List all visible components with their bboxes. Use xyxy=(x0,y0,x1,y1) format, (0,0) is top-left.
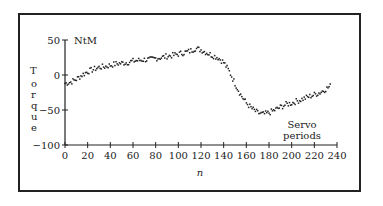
x-tick-label: 120 xyxy=(191,150,210,161)
x-tick-label: 160 xyxy=(237,150,256,161)
x-tick-label: 180 xyxy=(259,150,278,161)
torque-chart: 020406080100120140160180200220240500−50−… xyxy=(0,0,383,206)
annotation-line2: periods xyxy=(283,130,321,141)
y-axis-label: T o r q u e xyxy=(30,65,38,133)
x-tick-label: 100 xyxy=(169,150,188,161)
svg-text:T: T xyxy=(30,65,37,76)
data-points xyxy=(64,46,331,115)
x-tick-label: 40 xyxy=(104,150,117,161)
svg-text:q: q xyxy=(31,100,38,111)
y-tick-label: −100 xyxy=(33,140,60,151)
annotation-line1: Servo xyxy=(287,119,316,130)
svg-text:u: u xyxy=(31,111,38,122)
x-tick-label: 240 xyxy=(327,150,346,161)
y-tick-label: −50 xyxy=(39,105,60,116)
y-tick-label: 0 xyxy=(54,70,60,81)
x-tick-label: 140 xyxy=(214,150,233,161)
svg-text:r: r xyxy=(31,89,36,100)
svg-text:e: e xyxy=(31,122,37,133)
x-tick-label: 60 xyxy=(127,150,140,161)
y-tick-label: 50 xyxy=(47,35,60,46)
x-tick-label: 0 xyxy=(62,150,68,161)
x-tick-label: 20 xyxy=(81,150,94,161)
y-unit-label: NtM xyxy=(74,35,97,46)
x-axis-label: n xyxy=(197,167,203,178)
x-tick-label: 80 xyxy=(149,150,162,161)
x-tick-label: 220 xyxy=(305,150,324,161)
x-tick-label: 200 xyxy=(282,150,301,161)
svg-text:o: o xyxy=(31,78,37,89)
